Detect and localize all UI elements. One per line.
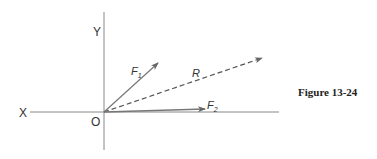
- y-axis-label: Y: [93, 25, 101, 39]
- vector-diagram: X Y O F1 R F2 Figure 13-24: [0, 0, 377, 159]
- origin-label: O: [91, 115, 100, 129]
- vector-f1-label: F1: [131, 65, 142, 79]
- x-axis-label: X: [19, 106, 27, 120]
- vector-f2-label: F2: [207, 99, 218, 113]
- vector-r-label: R: [192, 67, 200, 79]
- vector-r: [104, 58, 262, 112]
- figure-caption: Figure 13-24: [298, 86, 358, 98]
